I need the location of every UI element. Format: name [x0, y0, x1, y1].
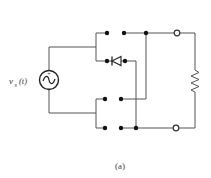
ac-voltage-source: + −	[40, 71, 59, 92]
diode	[112, 57, 121, 66]
node-lower-2	[119, 97, 123, 101]
source-label: v s (t)	[9, 76, 27, 88]
node-diode-right	[123, 59, 127, 63]
node-bottom-2	[119, 126, 123, 130]
top-row	[96, 33, 195, 99]
node-lower-1	[103, 97, 107, 101]
bottom-row	[121, 92, 195, 128]
switch-nodes	[103, 31, 148, 130]
node-top-2	[122, 31, 126, 35]
node-top-junction	[144, 31, 148, 35]
node-bottom-junction	[134, 126, 138, 130]
source-label-subscript: s	[15, 82, 18, 88]
source-label-arg: (t)	[19, 76, 27, 86]
diode-row	[107, 61, 136, 128]
output-terminal-bottom	[173, 125, 179, 131]
figure-caption: (a)	[115, 161, 125, 171]
source-label-v: v	[9, 76, 13, 86]
node-top-1	[105, 31, 109, 35]
output-terminal-top	[174, 30, 180, 36]
resistor	[191, 70, 199, 92]
node-bottom-1	[103, 126, 107, 130]
node-diode-left	[105, 59, 109, 63]
circuit-diagram: + − v s (t)	[0, 0, 211, 178]
